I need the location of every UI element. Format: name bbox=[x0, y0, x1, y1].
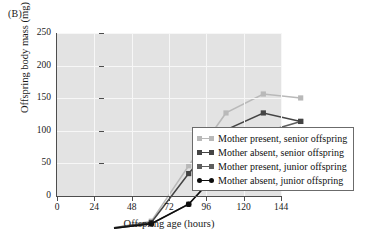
legend-marker-icon bbox=[197, 147, 214, 157]
data-point bbox=[261, 91, 266, 96]
data-point bbox=[298, 119, 303, 124]
legend-item-label: Mother present, junior offspring bbox=[218, 161, 347, 172]
x-tick-label: 96 bbox=[191, 202, 221, 212]
legend-item: Mother present, senior offspring bbox=[197, 131, 347, 145]
legend-item: Mother absent, senior offspring bbox=[197, 145, 347, 159]
gridline-vertical bbox=[132, 33, 133, 196]
data-point bbox=[298, 95, 303, 100]
y-tick bbox=[99, 98, 104, 99]
x-tick-label: 144 bbox=[266, 202, 296, 212]
y-tick bbox=[99, 66, 104, 67]
x-tick-label: 120 bbox=[229, 202, 259, 212]
legend-item: Mother absent, junior offspring bbox=[197, 173, 347, 187]
y-tick-label: 250 bbox=[21, 27, 51, 37]
data-point bbox=[186, 171, 191, 176]
y-tick bbox=[99, 163, 104, 164]
x-tick-label: 72 bbox=[154, 202, 184, 212]
legend-item-label: Mother absent, junior offspring bbox=[218, 175, 343, 186]
x-tick bbox=[94, 196, 95, 201]
y-tick bbox=[99, 33, 104, 34]
chart-legend: Mother present, senior offspring Mother … bbox=[192, 127, 354, 191]
legend-marker-icon bbox=[197, 133, 214, 143]
gridline-horizontal bbox=[57, 66, 281, 67]
x-tick bbox=[132, 196, 133, 201]
legend-marker-icon bbox=[197, 175, 214, 185]
x-tick-label: 48 bbox=[117, 202, 147, 212]
gridline-horizontal bbox=[57, 33, 281, 34]
y-tick-label: 150 bbox=[21, 92, 51, 102]
x-tick bbox=[244, 196, 245, 201]
x-tick bbox=[206, 196, 207, 201]
data-point bbox=[223, 110, 228, 115]
x-tick bbox=[281, 196, 282, 201]
y-tick-label: 50 bbox=[21, 157, 51, 167]
data-point bbox=[261, 110, 266, 115]
legend-item-label: Mother present, senior offspring bbox=[218, 133, 347, 144]
x-tick bbox=[57, 196, 58, 201]
gridline-vertical bbox=[94, 33, 95, 196]
y-tick-label: 0 bbox=[21, 190, 51, 200]
gridline-vertical bbox=[169, 33, 170, 196]
x-tick-label: 0 bbox=[42, 202, 72, 212]
y-tick-label: 100 bbox=[21, 125, 51, 135]
y-tick bbox=[99, 196, 104, 197]
y-tick-label: 200 bbox=[21, 60, 51, 70]
x-tick-label: 24 bbox=[79, 202, 109, 212]
y-tick bbox=[99, 131, 104, 132]
legend-item-label: Mother absent, senior offspring bbox=[218, 147, 344, 158]
legend-marker-icon bbox=[197, 161, 214, 171]
gridline-horizontal bbox=[57, 98, 281, 99]
x-axis-label: Offspring age (hours) bbox=[57, 218, 281, 229]
x-tick bbox=[169, 196, 170, 201]
legend-item: Mother present, junior offspring bbox=[197, 159, 347, 173]
chart-figure: (B) Offspring body mass (mg) 05010015020… bbox=[0, 0, 387, 241]
y-axis-line bbox=[56, 33, 57, 197]
